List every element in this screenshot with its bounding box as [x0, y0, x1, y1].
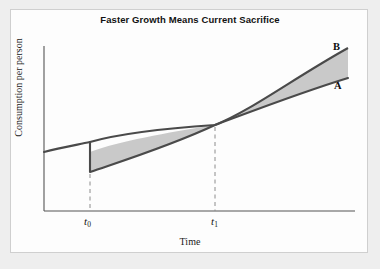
curve-label-a: A: [334, 80, 342, 91]
x-tick-label-t0: t0: [84, 215, 91, 229]
x-tick-label-t1: t1: [211, 215, 218, 229]
curve-label-b: B: [333, 41, 340, 52]
figure-container: Faster Growth Means Current Sacrifice Co…: [0, 0, 380, 269]
curve-trunk: [44, 142, 90, 152]
plot-area: [0, 0, 380, 269]
